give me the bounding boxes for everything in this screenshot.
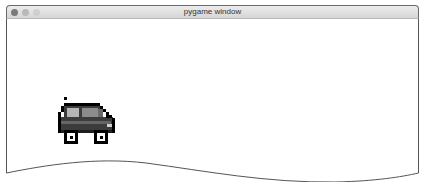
front-wheel: [94, 130, 108, 144]
car-sprite: [54, 97, 134, 157]
title-bar[interactable]: pygame window: [6, 5, 419, 19]
rear-wheel: [64, 130, 78, 144]
game-canvas[interactable]: [6, 19, 419, 182]
window-title: pygame window: [7, 7, 418, 16]
pygame-window: pygame window: [6, 5, 419, 180]
